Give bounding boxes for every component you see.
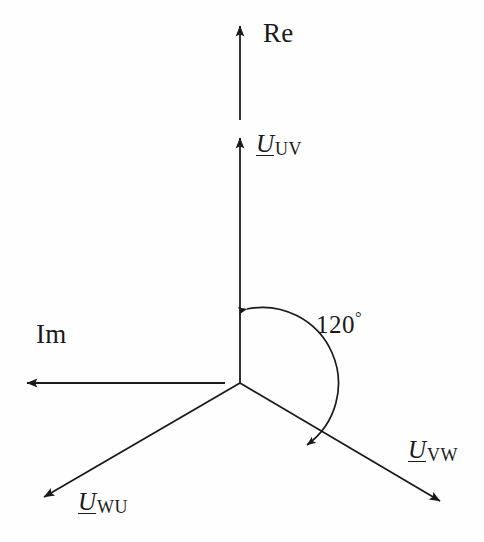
imaginary-axis-label: Im: [36, 321, 67, 348]
phasor-uuv-subscript: UV: [275, 139, 302, 159]
angle-label-120: 120°: [316, 310, 362, 337]
phasor-uuv-label: UUV: [256, 131, 301, 156]
phasor-uvw-subscript: VW: [427, 445, 458, 465]
phasor-uwu-arrow: [44, 383, 240, 497]
degree-symbol: °: [355, 308, 362, 327]
phasor-uvw-label: UVW: [408, 437, 457, 462]
angle-value: 120: [316, 311, 355, 338]
phasor-diagram: Re Im UUV UVW UWU 120°: [0, 0, 484, 542]
phasor-uwu-label: UWU: [78, 489, 127, 514]
phasor-uwu-subscript: WU: [97, 497, 128, 517]
phasor-uwu-symbol: U: [78, 488, 97, 515]
real-axis-label: Re: [263, 20, 294, 47]
phasor-uvw-symbol: U: [408, 436, 427, 463]
phasor-uuv-symbol: U: [256, 130, 275, 157]
